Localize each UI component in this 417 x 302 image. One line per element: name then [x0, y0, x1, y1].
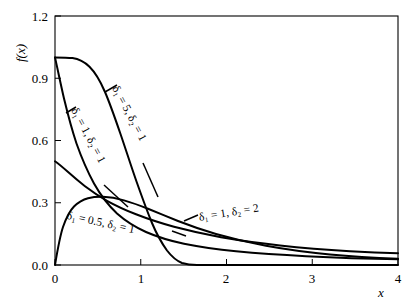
x-tick-label-3: 3 — [300, 272, 324, 285]
plot-canvas — [0, 0, 417, 302]
y-tick-label-0_6: 0.6 — [16, 134, 48, 147]
y-tick-label-0_0: 0.0 — [16, 259, 48, 272]
curve-d1-5-d2-1 — [55, 57, 398, 265]
y-axis-title: f(x) — [14, 44, 27, 62]
y-tick-label-1_2: 1.2 — [16, 10, 48, 23]
chart-figure: 1.2 0.9 0.6 0.3 0.0 0 1 2 3 4 f(x) x δ₁ … — [0, 0, 417, 302]
leader-d1-5-d2-1-bottom — [143, 163, 158, 197]
x-tick-label-0: 0 — [43, 272, 67, 285]
leader-d1-1-d2-2 — [184, 215, 198, 221]
x-tick-label-2: 2 — [214, 272, 238, 285]
x-tick-label-1: 1 — [129, 272, 153, 285]
x-axis-title: x — [378, 286, 384, 299]
x-tick-label-4: 4 — [386, 272, 410, 285]
y-tick-label-0_9: 0.9 — [16, 72, 48, 85]
y-tick-marks — [55, 16, 61, 265]
y-tick-label-0_3: 0.3 — [16, 196, 48, 209]
leader-d1-05-d2-1 — [172, 231, 186, 236]
